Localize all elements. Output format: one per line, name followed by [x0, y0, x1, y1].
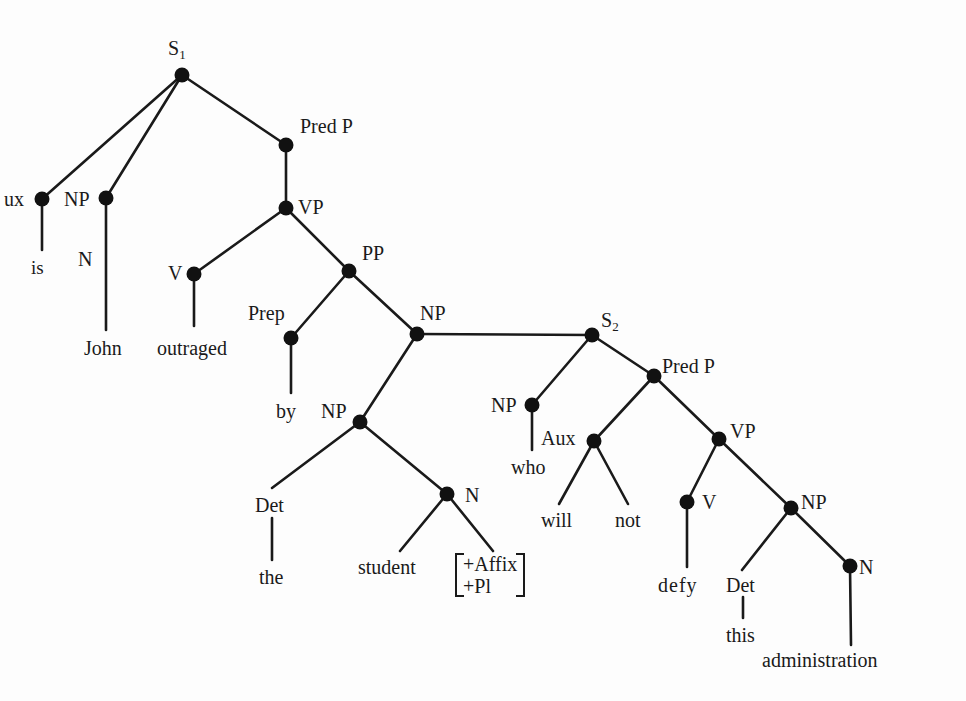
word-not: not — [615, 510, 641, 530]
label-s1: S1 — [168, 38, 186, 61]
label-pp: PP — [362, 243, 384, 263]
label-det: Det — [255, 495, 284, 515]
label-vp: VP — [298, 197, 324, 217]
node-s2 — [585, 328, 600, 343]
label-np2: NP — [420, 303, 446, 323]
node-n-admin — [843, 559, 858, 574]
label-n-student: N — [465, 485, 479, 505]
label-v: V — [168, 263, 182, 283]
word-defy: defy — [658, 575, 698, 595]
label-aux2: Aux — [541, 428, 575, 448]
label-np3: NP — [321, 401, 347, 421]
node-prep — [284, 331, 299, 346]
word-will: will — [541, 510, 572, 530]
label-prep: Prep — [248, 303, 285, 323]
node-s1 — [175, 68, 190, 83]
feature-affix: +Affix — [463, 553, 517, 575]
feature-plural: +Pl — [463, 575, 517, 597]
label-n-john: N — [78, 249, 92, 269]
label-pred-p2: Pred P — [662, 356, 715, 376]
node-np3 — [353, 415, 368, 430]
node-pp — [342, 264, 357, 279]
word-the: the — [259, 567, 283, 587]
word-outraged: outraged — [157, 338, 227, 358]
label-np4: NP — [801, 492, 827, 512]
word-administration: administration — [762, 650, 878, 670]
node-vp — [279, 201, 294, 216]
word-by: by — [276, 401, 296, 421]
node-np-john — [99, 191, 114, 206]
node-v — [187, 267, 202, 282]
label-pred-p: Pred P — [300, 116, 353, 136]
label-det2: Det — [726, 575, 755, 595]
node-np4 — [784, 501, 799, 516]
word-who: who — [511, 457, 545, 477]
node-n-student — [440, 487, 455, 502]
node-v2 — [680, 495, 695, 510]
feature-matrix: +Affix +Pl — [455, 553, 525, 597]
word-student: student — [358, 557, 416, 577]
node-np-who — [525, 398, 540, 413]
node-pred-p2 — [647, 369, 662, 384]
node-np2 — [410, 327, 425, 342]
node-aux — [35, 192, 50, 207]
label-aux: ux — [4, 189, 24, 209]
node-vp2 — [712, 432, 727, 447]
label-s2: S2 — [601, 310, 619, 333]
word-is: is — [31, 258, 44, 277]
node-aux2 — [587, 434, 602, 449]
label-n-admin: N — [859, 557, 873, 577]
label-vp2: VP — [730, 421, 756, 441]
syntax-tree-diagram: S1 ux NP is N John Pred P VP V outraged … — [0, 0, 966, 701]
label-np-john: NP — [64, 189, 90, 209]
node-pred-p — [279, 138, 294, 153]
label-v2: V — [702, 492, 716, 512]
word-john: John — [84, 338, 122, 358]
word-this: this — [726, 625, 755, 645]
label-np-who: NP — [491, 395, 517, 415]
